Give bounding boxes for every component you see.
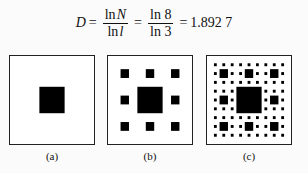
fractal-dimension-formula: D = ln N ln l = ln 8 ln 3 = 1.892 7	[0, 6, 308, 40]
panel-label-a: (a)	[32, 150, 72, 162]
denominator: ln 3	[148, 24, 173, 39]
formula-result: 1.892 7	[190, 15, 232, 31]
equals-sign: =	[179, 15, 187, 31]
fraction-lnN-over-lnl: ln N ln l	[103, 8, 128, 39]
fraction-ln8-over-ln3: ln 8 ln 3	[148, 8, 173, 39]
numerator: ln 8	[148, 8, 173, 24]
carpet-figure	[108, 56, 192, 144]
numerator: ln N	[103, 8, 128, 24]
carpet-panel-a	[9, 55, 95, 145]
formula-lhs: D	[76, 15, 86, 31]
carpet-panel-b	[107, 55, 193, 145]
carpet-panel-c	[206, 55, 292, 145]
carpet-figure	[10, 56, 94, 144]
panel-label-c: (c)	[229, 150, 269, 162]
equals-sign: =	[134, 15, 142, 31]
equals-sign: =	[89, 15, 97, 31]
panel-label-b: (b)	[130, 150, 170, 162]
carpet-figure	[207, 56, 291, 144]
denominator: ln l	[105, 24, 125, 39]
